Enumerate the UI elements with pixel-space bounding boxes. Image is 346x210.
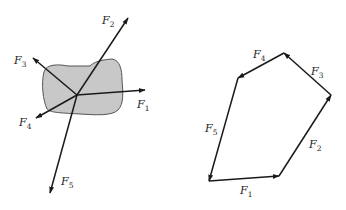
force-label-f4: F4	[18, 116, 32, 131]
force-diagram: F1F2F3F4F5 F1F2F3F4F5	[0, 0, 346, 210]
force-label-f2: F2	[101, 14, 115, 29]
force-label-f5: F5	[60, 175, 74, 190]
left-panel: F1F2F3F4F5	[13, 14, 149, 193]
polygon-label-f5: F5	[204, 122, 218, 137]
force-label-f3: F3	[13, 54, 27, 69]
polygon-label-f4: F4	[252, 48, 266, 63]
polygon-label-f1: F1	[239, 184, 252, 199]
polygon-label-f3: F3	[310, 65, 324, 80]
polygon-label-f2: F2	[308, 138, 322, 153]
polygon-edge-f3	[284, 53, 331, 95]
right-panel: F1F2F3F4F5	[204, 48, 331, 199]
force-label-f1: F1	[136, 98, 149, 113]
polygon-edge-f2	[279, 95, 331, 176]
polygon-edge-f1	[209, 176, 279, 181]
